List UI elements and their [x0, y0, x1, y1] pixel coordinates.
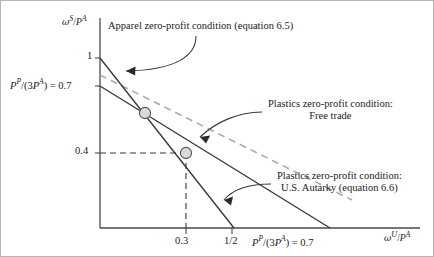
y-tick-label-1: 1 — [87, 50, 92, 62]
intersection-marker-upper — [139, 107, 150, 118]
diagram-svg — [0, 0, 434, 257]
y-axis-label: ωS/PA — [62, 14, 87, 28]
annotation-free-trade-line2: Free trade — [268, 110, 393, 122]
figure-border — [1, 1, 434, 257]
x-tick-label-half: 1/2 — [224, 235, 237, 247]
annotation-free-trade-line1: Plastics zero-profit condition: — [268, 98, 393, 110]
y-tick-label-0-4: 0.4 — [75, 145, 88, 157]
bottom-price-ratio-label: PP/(3PA) = 0.7 — [252, 235, 314, 249]
annotation-autarky-line2: U.S. Autarky (equation 6.6) — [277, 182, 402, 194]
annotation-autarky-line1: Plastics zero-profit condition: — [277, 170, 402, 182]
left-price-ratio-label: PP/(3PA) = 0.7 — [10, 78, 72, 92]
figure-canvas: ωS/PA ωU/PA 1 0.4 PP/(3PA) = 0.7 0.3 1/2… — [0, 0, 434, 257]
equilibrium-marker — [180, 147, 191, 158]
x-tick-label-0-3: 0.3 — [175, 235, 188, 247]
annotation-plastics-autarky: Plastics zero-profit condition: U.S. Aut… — [277, 170, 402, 194]
x-axis-label: ωU/PA — [384, 230, 410, 244]
annotation-apparel: Apparel zero-profit condition (equation … — [108, 20, 293, 32]
annotation-apparel-line1: Apparel zero-profit condition (equation … — [108, 20, 293, 32]
annotation-plastics-free-trade: Plastics zero-profit condition: Free tra… — [268, 98, 393, 122]
